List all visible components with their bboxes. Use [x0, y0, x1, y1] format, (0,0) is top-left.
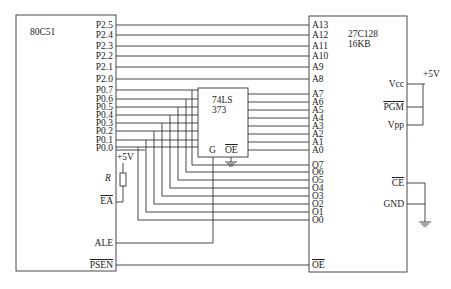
pin-p2-2: P2.2	[80, 52, 113, 62]
pin-ce: CE	[370, 179, 404, 189]
pin-p0-0: P0.0	[80, 144, 113, 154]
pin-psen: PSEN	[70, 261, 113, 271]
pin-ale: ALE	[80, 239, 113, 249]
pin-vpp: Vpp	[370, 121, 404, 131]
pin-a8: A8	[312, 75, 324, 85]
pin-p2-4: P2.4	[80, 31, 113, 41]
pin-p2-0: P2.0	[80, 75, 113, 85]
eprom-title-2: 16KB	[348, 40, 371, 50]
pin-vcc: Vcc	[370, 80, 404, 90]
eprom-supply-label: +5V	[423, 70, 440, 80]
pin-eprom-oe: OE	[312, 261, 325, 271]
pin-a10: A10	[312, 52, 328, 62]
ea-supply-label: +5V	[117, 153, 134, 163]
pin-gnd: GND	[370, 200, 404, 210]
latch-title-2: 373	[212, 106, 226, 116]
latch-pin-oe: OE	[225, 146, 238, 156]
pin-o0: O0	[312, 216, 324, 226]
pin-p2-1: P2.1	[80, 63, 113, 73]
pin-a0: A0	[312, 146, 324, 156]
pin-a9: A9	[312, 63, 324, 73]
resistor-label: R	[105, 174, 111, 184]
pin-a12: A12	[312, 31, 328, 41]
pin-ea: EA	[80, 197, 113, 207]
80c51-title: 80C51	[30, 28, 55, 38]
pin-pgm: PGM	[370, 103, 404, 113]
latch-pin-g: G	[209, 146, 216, 156]
